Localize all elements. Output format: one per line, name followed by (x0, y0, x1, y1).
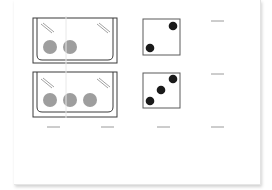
ball-icon (43, 93, 57, 107)
ball-icon (63, 40, 77, 54)
ball-icon (63, 93, 77, 107)
die-two-icon (143, 19, 180, 55)
worksheet-illustrations (0, 0, 272, 190)
ball-icon (43, 40, 57, 54)
tub-row-1 (33, 18, 117, 63)
die-three-icon (143, 73, 180, 108)
ball-icon (83, 93, 97, 107)
tub-row-2 (33, 72, 117, 117)
